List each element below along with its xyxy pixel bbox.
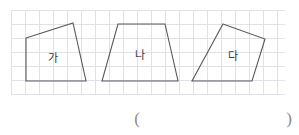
worksheet-figure: 가 나 다 ( ) xyxy=(0,0,299,135)
shape-label-na: 나 xyxy=(135,50,145,61)
answer-paren-open: ( xyxy=(134,110,140,127)
shape-label-ga: 가 xyxy=(48,53,58,64)
shape-label-da: 다 xyxy=(228,51,238,62)
answer-paren-close: ) xyxy=(286,110,292,127)
shapes-layer xyxy=(0,0,299,135)
